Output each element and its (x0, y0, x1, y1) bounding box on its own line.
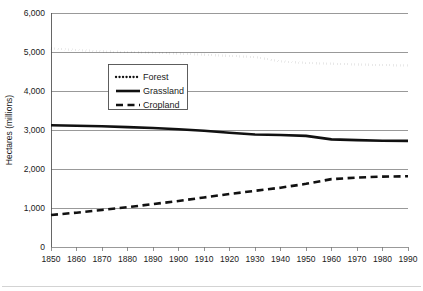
x-tick-label-group: 1850186018701880189019001910192019301940… (42, 254, 418, 264)
y-tick-label: 4,000 (24, 86, 46, 96)
legend-label-forest: Forest (143, 72, 169, 82)
x-tick-label: 1960 (322, 254, 341, 264)
x-tick-label: 1920 (220, 254, 239, 264)
gridline-group (51, 13, 408, 247)
y-tick-label: 2,000 (24, 164, 46, 174)
x-tick-label: 1940 (271, 254, 290, 264)
chart-canvas: 01,0002,0003,0004,0005,0006,000 18501860… (0, 0, 423, 291)
x-tickmark-group (51, 247, 408, 251)
x-tick-label: 1980 (373, 254, 392, 264)
x-tick-label: 1910 (195, 254, 214, 264)
x-tick-label: 1900 (169, 254, 188, 264)
y-tick-label-group: 01,0002,0003,0004,0005,0006,000 (24, 8, 46, 252)
y-tick-label: 0 (40, 242, 45, 252)
x-tick-label: 1880 (118, 254, 137, 264)
y-tick-label: 3,000 (24, 125, 46, 135)
x-tick-label: 1950 (297, 254, 316, 264)
series-line-grassland (51, 125, 408, 141)
line-chart: 01,0002,0003,0004,0005,0006,000 18501860… (0, 0, 423, 291)
x-tick-label: 1890 (144, 254, 163, 264)
y-tick-label: 6,000 (24, 8, 46, 18)
legend-label-cropland: Cropland (143, 100, 180, 110)
series-line-cropland (51, 176, 408, 215)
x-tick-label: 1970 (348, 254, 367, 264)
data-series-group (51, 48, 408, 215)
x-tick-label: 1930 (246, 254, 265, 264)
series-line-forest (51, 48, 408, 65)
chart-legend: ForestGrasslandCropland (109, 65, 188, 111)
x-tick-label: 1990 (399, 254, 418, 264)
x-tick-label: 1850 (42, 254, 61, 264)
x-tick-label: 1870 (93, 254, 112, 264)
y-axis-title: Hectares (millions) (4, 95, 14, 166)
legend-label-grassland: Grassland (143, 86, 184, 96)
y-tick-label: 5,000 (24, 47, 46, 57)
y-tick-label: 1,000 (24, 203, 46, 213)
x-tick-label: 1860 (67, 254, 86, 264)
